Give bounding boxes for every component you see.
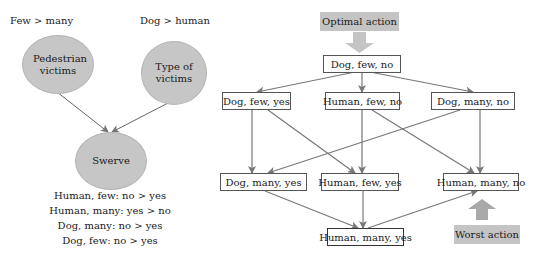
rule-line: Dog, few: no > yes bbox=[40, 233, 180, 248]
criterion-preference-label: Few > many bbox=[10, 15, 60, 26]
swerve-rules: Human, few: no > yes Human, many: yes > … bbox=[40, 188, 180, 248]
node-label: Swerve bbox=[92, 155, 130, 167]
criterion-preference-label: Dog > human bbox=[140, 15, 200, 26]
worst-action-label: Worst action bbox=[454, 225, 520, 244]
rule-line: Human, many: yes > no bbox=[40, 203, 180, 218]
optimal-down-arrow-icon bbox=[345, 32, 374, 53]
action-node: Human, few, no bbox=[325, 92, 400, 110]
rule-line: Human, few: no > yes bbox=[40, 188, 180, 203]
action-node: Human, few, yes bbox=[321, 173, 399, 191]
action-node: Dog, many, no bbox=[431, 92, 515, 110]
action-node: Dog, many, yes bbox=[220, 173, 307, 191]
type-of-victims-node: Type of victims bbox=[141, 41, 207, 105]
worst-up-arrow-icon bbox=[468, 199, 496, 220]
swerve-node: Swerve bbox=[75, 132, 147, 190]
optimal-action-label: Optimal action bbox=[320, 12, 399, 31]
action-node: Dog, few, yes bbox=[222, 92, 291, 110]
action-node-top: Dog, few, no bbox=[323, 55, 401, 73]
node-label: Pedestrian victims bbox=[33, 53, 83, 77]
pedestrian-victims-node: Pedestrian victims bbox=[22, 35, 94, 94]
action-node: Human, many, no bbox=[443, 173, 519, 191]
rule-line: Dog, many: no > yes bbox=[40, 218, 180, 233]
node-label: Type of victims bbox=[152, 61, 196, 85]
action-node-bottom: Human, many, yes bbox=[327, 228, 404, 246]
